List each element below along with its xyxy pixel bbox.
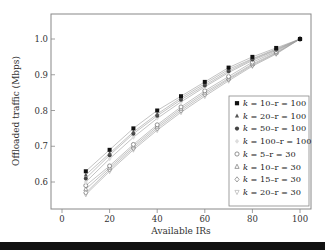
legend-label: k = 10–r = 30 [243,162,301,172]
x-tick-label: 60 [199,214,210,224]
filled-circle-marker-icon [84,176,88,180]
legend-item: k = 15–r = 30 [235,174,301,184]
filled-square-marker-icon [203,80,207,84]
filled-square-marker-icon [227,66,231,70]
filled-square-marker-icon [108,148,112,152]
open-circle-marker-icon [108,164,112,168]
legend-label: k = 100–r = 100 [243,136,311,146]
filled-square-marker-icon [298,37,302,41]
legend-item: k = 50–r = 100 [235,123,306,133]
filled-square-marker-icon [179,94,183,98]
open-circle-marker-icon [155,123,159,127]
x-axis-label: Available IRs [150,226,211,236]
legend-item: k = 10–r = 30 [235,162,301,172]
open-circle-marker-icon [131,142,135,146]
y-tick-label: 0.9 [34,70,48,80]
line-chart: 0.60.70.80.91.0 020406080100 Offloaded t… [0,0,325,250]
y-tick-label: 0.7 [34,141,48,151]
legend-item: k = 100–r = 100 [235,136,311,146]
legend-label: k = 50–r = 100 [243,123,306,133]
filled-square-marker-icon [131,126,135,130]
legend-item: k = 20–r = 100 [235,111,306,121]
filled-square-marker-icon [250,55,254,59]
legend-item: k = 5–r = 30 [235,149,296,159]
legend-label: k = 20–r = 100 [243,111,306,121]
y-tick-label: 0.8 [34,106,48,116]
legend-item: k = 20–r = 30 [235,187,301,197]
x-tick-label: 80 [247,214,258,224]
legend-label: k = 5–r = 30 [243,149,296,159]
filled-square-marker-icon [84,169,88,173]
filled-circle-marker-icon [235,127,239,131]
open-circle-marker-icon [203,89,207,93]
open-circle-marker-icon [235,152,239,156]
filled-square-marker-icon [235,101,239,105]
bottom-border-bar [0,242,325,250]
y-tick-label: 1.0 [34,34,48,44]
legend-label: k = 20–r = 30 [243,187,301,197]
y-axis-label: Offloaded traffic (Mbps) [11,56,21,166]
x-tick-label: 100 [292,214,308,224]
open-circle-marker-icon [179,105,183,109]
legend: k = 10–r = 100k = 20–r = 100k = 50–r = 1… [229,96,311,206]
legend-label: k = 10–r = 100 [243,98,306,108]
x-tick-label: 20 [104,214,115,224]
filled-square-marker-icon [274,46,278,50]
open-circle-marker-icon [227,75,231,79]
y-tick-label: 0.6 [34,177,48,187]
x-tick-label: 40 [152,214,163,224]
filled-square-marker-icon [155,109,159,113]
legend-item: k = 10–r = 100 [235,98,306,108]
legend-label: k = 15–r = 30 [243,174,301,184]
x-axis: 020406080100 [59,209,308,224]
x-tick-label: 0 [59,214,64,224]
